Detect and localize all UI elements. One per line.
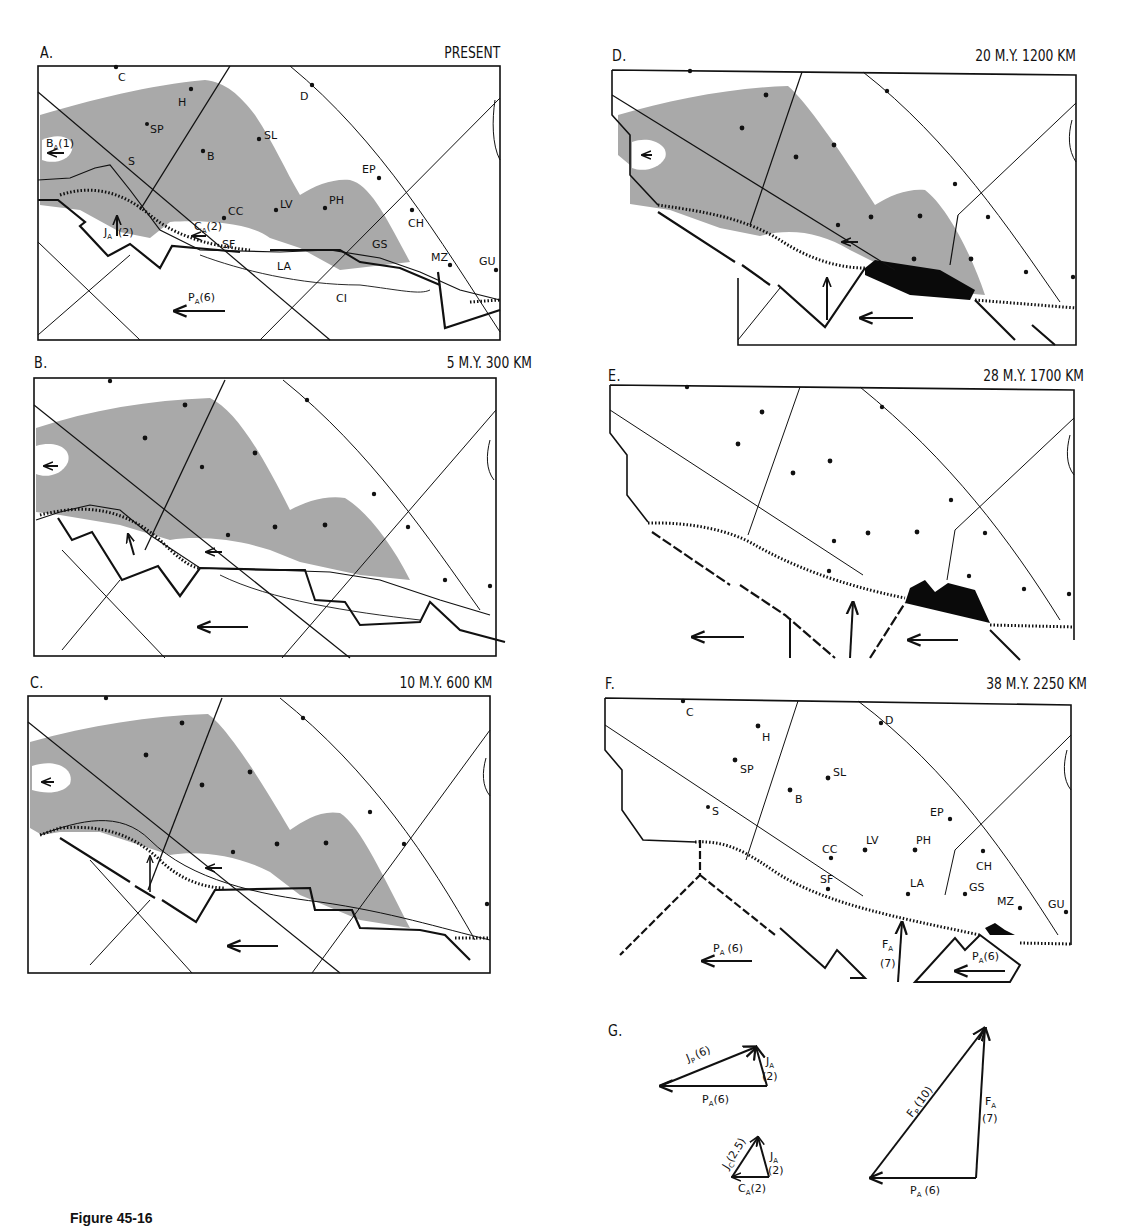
panel-a: A. PRESENT C H SP D xyxy=(0,0,560,340)
svg-text:(2): (2) xyxy=(768,1164,784,1177)
svg-text:CH: CH xyxy=(408,217,424,230)
svg-text:SL: SL xyxy=(833,766,847,779)
panel-d: D. 20 M.Y. 1200 KM xyxy=(580,0,1144,340)
svg-text:GS: GS xyxy=(969,881,985,894)
panel-g: G. JP(6) JA (2) PA(6) JC(2.5) JA (2) CA(… xyxy=(580,1010,1144,1232)
svg-text:GU: GU xyxy=(479,255,496,268)
triangle-fp-fa-pa: FP(10) FA (7) PA(6) xyxy=(870,1028,998,1199)
svg-text:SF: SF xyxy=(222,238,235,251)
svg-text:LV: LV xyxy=(866,834,879,847)
svg-text:FP(10): FP(10) xyxy=(904,1084,937,1121)
panel-c-map xyxy=(0,660,560,990)
svg-text:SP: SP xyxy=(740,763,754,776)
svg-text:SP: SP xyxy=(150,123,164,136)
svg-text:CC: CC xyxy=(822,843,838,856)
panel-e-map xyxy=(580,340,1144,660)
svg-text:D: D xyxy=(300,90,308,103)
panel-c: C. 10 M.Y. 600 KM xyxy=(0,660,560,990)
svg-text:GS: GS xyxy=(372,238,388,251)
svg-text:SF: SF xyxy=(820,873,833,886)
svg-text:C: C xyxy=(118,71,126,84)
vector-triangles: JP(6) JA (2) PA(6) JC(2.5) JA (2) CA(2) … xyxy=(580,1010,1144,1232)
triangle-jc-ja-ca: JC(2.5) JA (2) CA(2) xyxy=(719,1136,784,1197)
panel-d-map xyxy=(580,0,1144,340)
svg-text:H: H xyxy=(762,731,770,744)
svg-text:CA(2): CA(2) xyxy=(738,1182,766,1197)
svg-text:BA(1): BA(1) xyxy=(46,137,74,152)
svg-text:MZ: MZ xyxy=(431,251,448,264)
svg-text:B: B xyxy=(207,150,215,163)
svg-text:JP(6): JP(6) xyxy=(683,1043,713,1067)
svg-text:CH: CH xyxy=(976,860,992,873)
svg-text:CC: CC xyxy=(228,205,244,218)
svg-text:PA(6): PA(6) xyxy=(188,291,215,306)
svg-text:PH: PH xyxy=(329,194,344,207)
svg-text:EP: EP xyxy=(362,163,376,176)
svg-text:S: S xyxy=(128,155,135,168)
svg-text:(7): (7) xyxy=(880,957,896,970)
svg-text:LA: LA xyxy=(277,260,291,273)
panel-f-map: C H D SP SL B S EP CC LV PH CH SF LA GS … xyxy=(580,660,1144,1000)
svg-text:PA(6): PA(6) xyxy=(972,950,999,965)
panel-b: B. 5 M.Y. 300 KM xyxy=(0,340,560,660)
svg-text:MZ: MZ xyxy=(997,895,1014,908)
figure-caption: Figure 45-16 xyxy=(70,1210,152,1226)
svg-text:EP: EP xyxy=(930,806,944,819)
svg-text:D: D xyxy=(885,714,893,727)
svg-text:LV: LV xyxy=(280,198,293,211)
svg-text:PH: PH xyxy=(916,834,931,847)
panel-a-map: C H SP D SL B S EP CC LV PH CH SF GS LA … xyxy=(0,0,560,340)
panel-f: F. 38 M.Y. 2250 KM C H D SP SL B S EP CC xyxy=(580,660,1144,1000)
svg-text:CI: CI xyxy=(336,292,347,305)
svg-text:SL: SL xyxy=(264,129,278,142)
svg-text:LA: LA xyxy=(910,877,924,890)
triangle-jp-ja-pa: JP(6) JA (2) PA(6) xyxy=(660,1043,778,1108)
svg-text:PA(6): PA(6) xyxy=(702,1093,729,1108)
svg-text:JA(2): JA(2) xyxy=(103,226,134,241)
svg-text:GU: GU xyxy=(1048,898,1065,911)
svg-text:PA(6): PA(6) xyxy=(910,1184,940,1199)
svg-text:JA: JA xyxy=(769,1150,778,1165)
svg-text:JA: JA xyxy=(765,1055,774,1070)
svg-text:H: H xyxy=(178,96,186,109)
panel-e: E. 28 M.Y. 1700 KM xyxy=(580,340,1144,660)
svg-text:FA: FA xyxy=(882,938,893,953)
svg-text:CA(2): CA(2) xyxy=(194,220,222,235)
panel-b-map xyxy=(0,340,560,660)
svg-text:(2): (2) xyxy=(762,1070,778,1083)
svg-text:(7): (7) xyxy=(982,1112,998,1125)
svg-text:PA(6): PA(6) xyxy=(713,942,743,957)
svg-text:S: S xyxy=(712,805,719,818)
svg-text:FA: FA xyxy=(985,1095,996,1110)
svg-text:B: B xyxy=(795,793,803,806)
svg-text:C: C xyxy=(686,706,694,719)
